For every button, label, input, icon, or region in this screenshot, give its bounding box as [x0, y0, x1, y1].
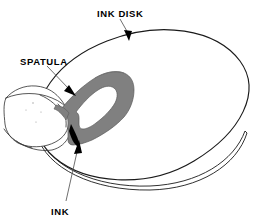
hand-stipple-2 — [40, 111, 41, 112]
ink-disk-spatula-illustration: INK DISK SPATULA INK — [0, 0, 260, 218]
label-spatula: SPATULA — [20, 56, 68, 67]
hand-stipple-4 — [25, 109, 26, 110]
diagram-canvas: INK DISK SPATULA INK — [0, 0, 260, 218]
hand-stipple-1 — [32, 102, 33, 103]
label-ink: INK — [51, 206, 69, 217]
label-ink-disk: INK DISK — [97, 8, 144, 19]
hand-stipple-3 — [35, 121, 36, 122]
